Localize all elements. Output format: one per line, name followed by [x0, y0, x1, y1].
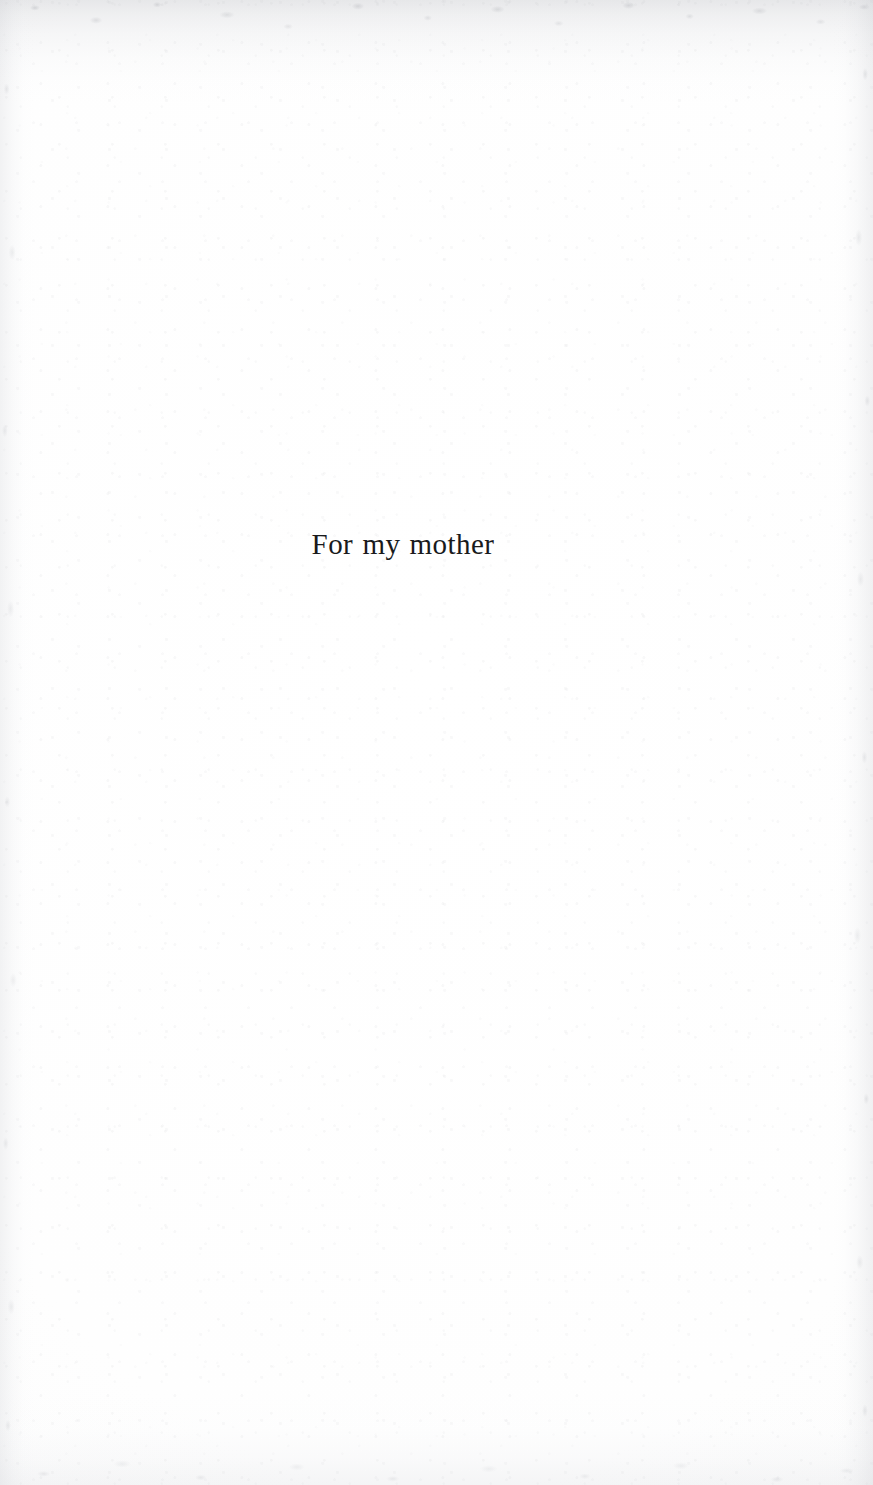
- paper-background: [0, 0, 873, 1485]
- dedication-page: For my mother: [0, 0, 873, 1485]
- dedication-block: For my mother: [0, 524, 806, 564]
- dedication-text: For my mother: [312, 524, 495, 564]
